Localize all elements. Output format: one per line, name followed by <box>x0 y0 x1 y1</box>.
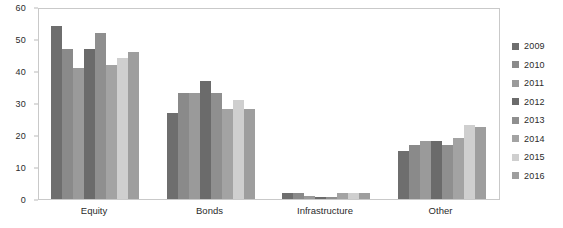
bar-chart: 6050403020100 EquityBondsInfrastructureO… <box>0 0 563 228</box>
bar <box>348 193 359 199</box>
x-axis-category-label: Bonds <box>196 205 223 216</box>
bar <box>222 109 233 199</box>
y-axis: 6050403020100 <box>0 0 34 200</box>
bar <box>398 151 409 199</box>
x-axis-category-label: Equity <box>81 205 107 216</box>
legend-swatch-icon <box>512 80 519 87</box>
bar <box>84 49 95 199</box>
legend-item[interactable]: 2010 <box>512 56 562 75</box>
y-axis-tick-label: 30 <box>16 99 26 109</box>
legend-item[interactable]: 2009 <box>512 37 562 56</box>
bar <box>189 93 200 199</box>
bar <box>73 68 84 199</box>
bar-group <box>398 9 486 199</box>
legend-swatch-icon <box>512 61 519 68</box>
y-axis-tick-label: 10 <box>16 163 26 173</box>
bar <box>167 113 178 199</box>
x-axis: EquityBondsInfrastructureOther <box>38 202 500 224</box>
y-axis-tick-label: 0 <box>21 195 26 205</box>
bar <box>95 33 106 199</box>
bar <box>62 49 73 199</box>
bar <box>315 197 326 199</box>
legend-item-label: 2010 <box>524 60 545 70</box>
bar-group <box>51 9 139 199</box>
legend-item[interactable]: 2014 <box>512 130 562 149</box>
bar <box>244 109 255 199</box>
legend-item-label: 2013 <box>524 115 545 125</box>
legend-item-label: 2012 <box>524 97 545 107</box>
bar <box>117 58 128 199</box>
bar <box>442 145 453 199</box>
bar <box>51 26 62 199</box>
bars-layer <box>39 9 499 199</box>
y-axis-tick-label: 40 <box>16 67 26 77</box>
legend-item[interactable]: 2015 <box>512 148 562 167</box>
bar <box>453 138 464 199</box>
legend-swatch-icon <box>512 172 519 179</box>
bar <box>200 81 211 199</box>
legend-item-label: 2011 <box>524 78 544 88</box>
bar <box>233 100 244 199</box>
legend-item[interactable]: 2013 <box>512 111 562 130</box>
plot-area <box>38 8 500 200</box>
bar-group <box>167 9 255 199</box>
bar <box>293 193 304 199</box>
bar <box>464 125 475 199</box>
y-axis-tick-label: 60 <box>16 3 26 13</box>
legend-item-label: 2014 <box>524 134 545 144</box>
bar <box>128 52 139 199</box>
x-axis-category-label: Infrastructure <box>297 205 353 216</box>
legend-item[interactable]: 2016 <box>512 167 562 186</box>
x-axis-category-label: Other <box>429 205 453 216</box>
legend-swatch-icon <box>512 43 519 50</box>
bar <box>282 193 293 199</box>
bar <box>431 141 442 199</box>
bar <box>337 193 348 199</box>
legend-swatch-icon <box>512 135 519 142</box>
bar <box>211 93 222 199</box>
bar <box>359 193 370 199</box>
legend-item-label: 2015 <box>524 152 545 162</box>
bar <box>475 127 486 199</box>
legend-swatch-icon <box>512 154 519 161</box>
bar <box>106 65 117 199</box>
legend-item[interactable]: 2011 <box>512 74 562 93</box>
bar-group <box>282 9 370 199</box>
legend-item-label: 2009 <box>524 41 545 51</box>
bar <box>304 196 315 199</box>
legend-item[interactable]: 2012 <box>512 93 562 112</box>
bar <box>420 141 431 199</box>
bar <box>178 93 189 199</box>
chart-legend: 20092010201120122013201420152016 <box>512 37 562 185</box>
bar <box>409 145 420 199</box>
legend-swatch-icon <box>512 98 519 105</box>
legend-swatch-icon <box>512 117 519 124</box>
y-axis-tick-label: 20 <box>16 131 26 141</box>
legend-item-label: 2016 <box>524 171 545 181</box>
y-axis-tick-label: 50 <box>16 35 26 45</box>
bar <box>326 197 337 199</box>
